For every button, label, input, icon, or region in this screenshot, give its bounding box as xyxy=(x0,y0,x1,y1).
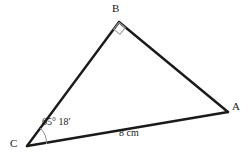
side-length-label-ca: 8 cm xyxy=(119,128,139,138)
angle-arc-c-icon xyxy=(40,128,47,144)
vertex-label-c: C xyxy=(10,138,17,149)
vertex-label-b: B xyxy=(112,3,119,14)
side-cb-line xyxy=(27,22,119,146)
vertex-label-a: A xyxy=(232,101,240,112)
side-ba-line xyxy=(119,22,228,112)
angle-label-c: 65° 18' xyxy=(42,117,70,127)
triangle-figure: B A C 65° 18' 8 cm xyxy=(0,0,250,160)
